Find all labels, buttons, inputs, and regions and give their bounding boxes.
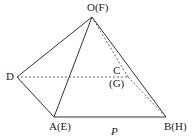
label-B: B(H) (164, 121, 187, 132)
label-O: O(F) (87, 2, 108, 13)
label-C: C (113, 65, 120, 76)
edge-DA (17, 77, 54, 117)
edge-CB (128, 77, 166, 117)
label-G: (G) (109, 78, 124, 89)
pyramid-drawing (0, 0, 194, 138)
edge-OB (92, 17, 166, 117)
label-plane-P: P (111, 126, 118, 137)
edge-OC (92, 17, 128, 77)
label-D: D (6, 71, 14, 82)
pyramid-figure: O(F) D C (G) A(E) B(H) P (0, 0, 194, 138)
label-A: A(E) (49, 121, 71, 132)
